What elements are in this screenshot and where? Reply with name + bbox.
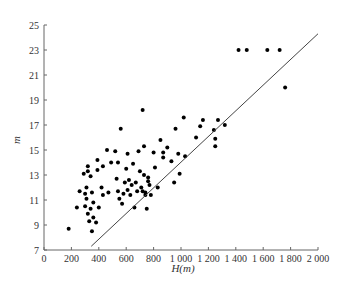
data-point [237,48,241,52]
data-point [265,48,269,52]
data-point [83,192,87,196]
y-tick-label: 9 [34,220,39,231]
x-tick-label: 600 [119,253,134,264]
data-point [84,186,88,190]
data-point [141,108,145,112]
data-point [142,144,146,148]
data-point [126,188,130,192]
data-point [283,86,287,90]
data-point [89,174,93,178]
data-point [172,181,176,185]
y-tick-label: 25 [29,20,39,31]
y-tick-label: 15 [29,145,39,156]
data-point [116,189,120,193]
data-point [105,148,109,152]
y-tick-label: 21 [29,70,39,81]
data-point [134,181,138,185]
data-point [131,162,135,166]
x-tick-label: 800 [146,253,161,264]
data-point [95,158,99,162]
data-point [87,219,91,223]
axes [44,25,318,250]
data-point [115,177,119,181]
data-point [124,167,128,171]
data-point [146,176,150,180]
data-point [95,168,99,172]
y-tick-label: 7 [34,245,39,256]
data-point [182,116,186,120]
data-point [152,151,156,155]
data-point [86,164,90,168]
data-point [126,152,130,156]
data-point [245,48,249,52]
data-point [86,212,90,216]
y-tick-label: 19 [29,95,39,106]
data-point [135,189,139,193]
y-tick-label: 13 [29,170,39,181]
x-tick-label: 1 600 [252,253,275,264]
data-point [165,146,169,150]
data-point [91,201,95,205]
data-point [213,144,217,148]
data-point [116,161,120,165]
data-point [138,169,142,173]
data-point [120,202,124,206]
x-tick-label: 400 [91,253,106,264]
data-point [130,183,134,187]
scatter-chart: 02004006008001 0001 2001 4001 6001 8002 … [0,0,349,290]
data-point [90,229,94,233]
data-point [146,179,150,183]
ticks: 02004006008001 0001 2001 4001 6001 8002 … [29,20,329,265]
y-tick-label: 23 [29,45,39,56]
data-point [121,192,125,196]
data-point [213,137,217,141]
data-point [100,186,104,190]
data-point [97,206,101,210]
plot-area [67,34,318,247]
data-point [109,161,113,165]
data-point [139,186,143,190]
data-point [278,48,282,52]
y-tick-label: 11 [29,195,39,206]
data-point [158,138,162,142]
x-tick-label: 2 000 [307,253,330,264]
data-point [127,178,131,182]
data-point [178,172,182,176]
data-point [75,206,79,210]
data-point [176,152,180,156]
data-point [83,204,87,208]
data-point [145,207,149,211]
y-axis-label: m [10,136,22,144]
x-tick-label: 200 [64,253,79,264]
data-point [174,127,178,131]
data-point [198,124,202,128]
data-point [137,149,141,153]
data-point [94,221,98,225]
data-point [82,172,86,176]
data-point [113,149,117,153]
data-point [91,216,95,220]
data-point [223,123,227,127]
data-point [194,136,198,140]
data-point [89,207,93,211]
data-point [101,193,105,197]
data-point [123,181,127,185]
x-tick-label: 1 400 [225,253,248,264]
data-point [119,127,123,131]
data-point [84,197,88,201]
data-point [128,193,132,197]
data-point [153,166,157,170]
x-tick-label: 1 200 [197,253,220,264]
x-axis-label: H(m) [170,262,195,275]
data-point [216,118,220,122]
x-tick-label: 0 [42,253,47,264]
data-point [86,169,90,173]
data-point [90,191,94,195]
data-point [78,189,82,193]
reference-line [91,34,318,247]
data-point [147,183,151,187]
data-point [201,118,205,122]
y-tick-label: 17 [29,120,39,131]
data-point [161,151,165,155]
data-point [67,227,71,231]
